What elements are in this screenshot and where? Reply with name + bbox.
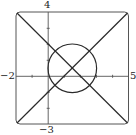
y-min-label: −3 <box>39 125 54 135</box>
x-min-label: −2 <box>0 71 15 81</box>
y-max-label: 4 <box>44 0 50 10</box>
x-max-label: 5 <box>130 71 136 81</box>
graph-window <box>0 0 136 135</box>
